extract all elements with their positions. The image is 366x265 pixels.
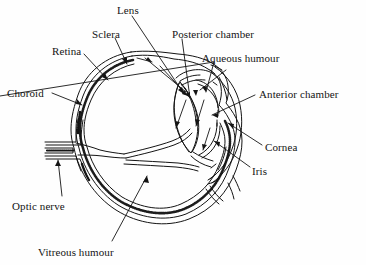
label-aqueous-humour: Aqueous humour [202, 52, 279, 64]
zonule-fiber-2 [182, 80, 205, 85]
label-lens: Lens [117, 4, 139, 16]
retina-contour [84, 64, 225, 208]
canal-schlemm-lower [211, 164, 216, 168]
arrowhead-optic-nerve [55, 160, 61, 166]
arrowhead-aux-6 [202, 144, 207, 150]
label-retina: Retina [52, 45, 81, 57]
label-choroid: Choroid [7, 87, 44, 99]
arrowhead-aqueous-humour [193, 90, 198, 96]
label-optic-nerve: Optic nerve [12, 200, 65, 212]
conjunctiva-fold-4 [233, 176, 240, 191]
vitreous-lower-partition-2 [124, 164, 198, 171]
label-cornea: Cornea [265, 141, 297, 153]
optic-nerve-upper-wall [45, 119, 78, 142]
label-vitreous-humour: Vitreous humour [38, 246, 114, 258]
conjunctiva-fold-1 [210, 186, 223, 201]
label-sclera: Sclera [92, 28, 120, 40]
eye-anatomy-figure: Lens Sclera Posterior chamber Retina Aqu… [0, 0, 366, 265]
label-posterior-chamber: Posterior chamber [172, 28, 254, 40]
label-iris: Iris [252, 165, 267, 177]
iris-lower-leaf [199, 123, 217, 155]
canal-schlemm-upper [213, 82, 217, 85]
arrowhead-aux-4 [175, 121, 180, 128]
conjunctiva-fold-3 [228, 183, 234, 199]
leader-anterior-chamber [212, 95, 255, 115]
leader-vitreous-humour [112, 176, 147, 241]
ciliary-body-superior [176, 70, 212, 78]
lens-body [174, 82, 198, 153]
label-anterior-chamber: Anterior chamber [259, 88, 338, 100]
optic-nerve-lower-wall [45, 156, 81, 171]
